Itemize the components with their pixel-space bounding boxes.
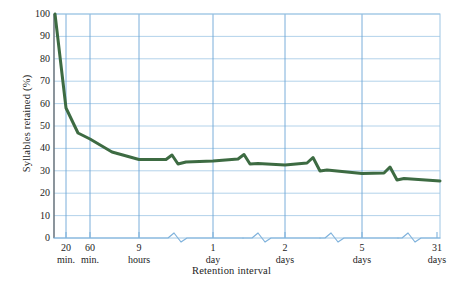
xtick-unit: days bbox=[407, 254, 463, 266]
xtick-5-days: 5 days bbox=[332, 242, 392, 265]
x-axis-title: Retention interval bbox=[0, 265, 463, 276]
x-axis-tick-labels: 20 min. 60 min. 9 hours 1 day 2 days 5 d… bbox=[0, 0, 463, 297]
xtick-1-day: 1 day bbox=[183, 242, 243, 265]
xtick-31-days: 31 days bbox=[407, 242, 463, 265]
xtick-9-hours: 9 hours bbox=[109, 242, 169, 265]
xtick-value: 60 bbox=[85, 242, 95, 253]
xtick-unit: days bbox=[255, 254, 315, 266]
xtick-value: 2 bbox=[283, 242, 288, 253]
xtick-unit: hours bbox=[109, 254, 169, 266]
xtick-unit: days bbox=[332, 254, 392, 266]
forgetting-curve-figure: 100 90 80 70 60 50 40 30 20 10 0 20 min.… bbox=[0, 0, 463, 297]
xtick-value: 1 bbox=[211, 242, 216, 253]
y-axis-title: Syllables retained (%) bbox=[21, 44, 32, 204]
xtick-value: 9 bbox=[137, 242, 142, 253]
xtick-value: 31 bbox=[432, 242, 442, 253]
xtick-2-days: 2 days bbox=[255, 242, 315, 265]
xtick-unit: day bbox=[183, 254, 243, 266]
xtick-value: 5 bbox=[360, 242, 365, 253]
